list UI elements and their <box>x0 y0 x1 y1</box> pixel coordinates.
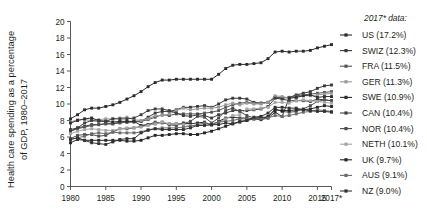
data-point <box>274 106 277 109</box>
legend-item-aus[interactable]: AUS (9.1%) <box>340 170 408 180</box>
data-point <box>217 73 220 76</box>
axis-spines <box>71 22 332 187</box>
data-point <box>140 139 143 142</box>
data-point <box>203 78 206 81</box>
data-point <box>175 112 178 115</box>
data-point <box>154 81 157 84</box>
data-point <box>267 112 270 115</box>
y-axis-title: Health care spending as a percentage of … <box>6 31 29 188</box>
data-point <box>302 108 305 111</box>
data-point <box>260 115 263 118</box>
data-point <box>288 102 291 105</box>
data-point <box>189 106 192 109</box>
data-point <box>125 140 128 143</box>
data-point <box>224 122 227 125</box>
data-point <box>104 122 107 125</box>
legend-label: UK (9.7%) <box>362 155 402 165</box>
data-point <box>83 126 86 129</box>
data-point <box>323 93 326 96</box>
series-line <box>71 107 332 144</box>
data-point <box>118 138 121 141</box>
data-point <box>161 134 164 137</box>
data-point <box>245 63 248 66</box>
data-point <box>316 93 319 96</box>
data-point <box>189 108 192 111</box>
data-point <box>69 132 72 135</box>
legend-item-swiz[interactable]: SWIZ (12.3%) <box>340 46 416 56</box>
data-point <box>90 139 93 142</box>
legend-title: 2017* data: <box>363 13 407 23</box>
legend-item-nor[interactable]: NOR (10.4%) <box>340 124 414 134</box>
legend-item-uk[interactable]: UK (9.7%) <box>340 155 402 165</box>
data-point <box>260 61 263 64</box>
legend-label: NZ (9.0%) <box>362 186 401 196</box>
data-point <box>288 99 291 102</box>
data-point <box>231 102 234 105</box>
data-point <box>330 95 333 98</box>
data-point <box>323 101 326 104</box>
legend-marker <box>344 33 347 36</box>
legend-item-nz[interactable]: NZ (9.0%) <box>340 186 401 196</box>
data-point <box>118 117 121 120</box>
data-point <box>267 106 270 109</box>
data-point <box>330 111 333 114</box>
data-point <box>147 136 150 139</box>
data-point <box>274 97 277 100</box>
legend-item-us[interactable]: US (17.2%) <box>340 30 407 40</box>
data-point <box>316 106 319 109</box>
data-point <box>161 114 164 117</box>
data-point <box>274 114 277 117</box>
data-point <box>210 117 213 120</box>
y-tick-label: 2 <box>60 166 65 175</box>
data-point <box>147 117 150 120</box>
data-point <box>83 135 86 138</box>
data-point <box>104 143 107 146</box>
data-point <box>69 138 72 141</box>
legend-item-swe[interactable]: SWE (10.9%) <box>340 92 414 102</box>
data-point <box>182 126 185 129</box>
data-point <box>224 106 227 109</box>
y-tick-label: 8 <box>60 117 65 126</box>
data-point <box>288 109 291 112</box>
data-point <box>104 105 107 108</box>
data-point <box>309 90 312 93</box>
data-point <box>111 103 114 106</box>
legend-item-fra[interactable]: FRA (11.5%) <box>340 61 411 71</box>
legend-item-neth[interactable]: NETH (10.1%) <box>340 139 418 149</box>
data-point <box>288 51 291 54</box>
data-point <box>203 122 206 125</box>
y-tick-label: 14 <box>55 67 65 76</box>
data-point <box>196 78 199 81</box>
data-point <box>274 94 277 97</box>
legend: US (17.2%)SWIZ (12.3%)FRA (11.5%)GER (11… <box>340 30 418 196</box>
data-point <box>323 104 326 107</box>
data-point <box>189 126 192 129</box>
data-point <box>224 125 227 128</box>
legend-item-can[interactable]: CAN (10.4%) <box>340 108 413 118</box>
data-point <box>182 107 185 110</box>
data-point <box>203 124 206 127</box>
data-point <box>90 127 93 130</box>
data-point <box>147 129 150 132</box>
legend-marker <box>344 174 347 177</box>
data-point <box>196 124 199 127</box>
data-point <box>111 117 114 120</box>
data-point <box>238 110 241 113</box>
legend-label: FRA (11.5%) <box>362 61 411 71</box>
chart-figure: Health care spending as a percentage of … <box>0 0 427 224</box>
data-point <box>125 117 128 120</box>
data-point <box>330 92 333 95</box>
data-point <box>83 122 86 125</box>
data-point <box>83 108 86 111</box>
data-point <box>111 121 114 124</box>
data-point <box>168 122 171 125</box>
y-tick-label: 10 <box>55 100 65 109</box>
data-point <box>83 117 86 120</box>
data-point <box>217 113 220 116</box>
data-point <box>217 103 220 106</box>
data-point <box>76 136 79 139</box>
data-point <box>203 131 206 134</box>
data-point <box>295 112 298 115</box>
data-point <box>154 114 157 117</box>
legend-item-ger[interactable]: GER (11.3%) <box>340 77 413 87</box>
